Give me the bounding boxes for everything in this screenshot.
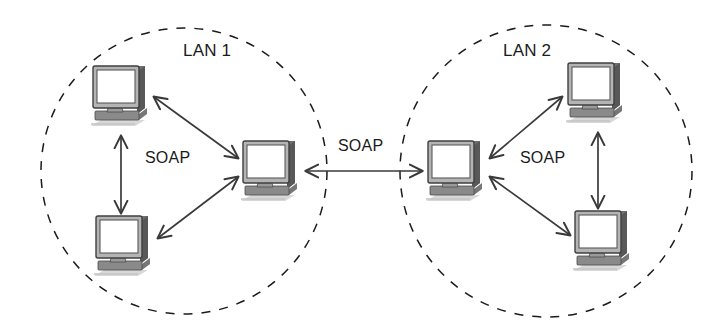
soap-connections: [121, 97, 598, 238]
computer-nodes: [91, 63, 629, 276]
lan2-client-top-computer-icon[interactable]: [566, 63, 622, 123]
network-diagram: LAN 1 LAN 2 SOAP SOAP SOAP: [0, 0, 718, 331]
lan2-server-computer-icon[interactable]: [426, 141, 482, 201]
connection-lan1-top-to-server: [154, 97, 238, 158]
connection-lan2-server-to-top: [490, 97, 562, 158]
diagram-canvas: [0, 0, 718, 331]
connection-lan1-bottom-to-server: [158, 177, 238, 238]
lan1-server-computer-icon[interactable]: [241, 141, 297, 201]
lan2-client-bottom-computer-icon[interactable]: [573, 211, 629, 271]
lan1-client-top-computer-icon[interactable]: [91, 66, 147, 126]
connection-lan2-server-to-bottom: [490, 177, 570, 235]
lan1-client-bottom-computer-icon[interactable]: [94, 216, 150, 276]
